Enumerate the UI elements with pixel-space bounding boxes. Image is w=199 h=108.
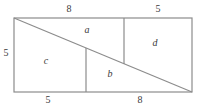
region-label-b: b bbox=[108, 69, 113, 79]
region-label-d: d bbox=[153, 38, 158, 48]
dimension-label-bottom-left: 5 bbox=[46, 95, 51, 105]
geometry-figure: 8 5 5 5 8 a c b d bbox=[0, 0, 199, 108]
region-label-a: a bbox=[85, 25, 90, 35]
region-label-c: c bbox=[44, 56, 48, 66]
dimension-label-top-right: 5 bbox=[156, 4, 161, 14]
dimension-label-left: 5 bbox=[4, 48, 9, 58]
dimension-label-top-left: 8 bbox=[67, 4, 72, 14]
figure-canvas bbox=[0, 0, 199, 108]
diagonal-line bbox=[14, 18, 192, 92]
dimension-label-bottom-right: 8 bbox=[138, 95, 143, 105]
